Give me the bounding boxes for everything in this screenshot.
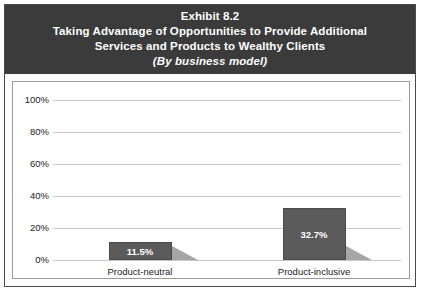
gridline-20 [53,228,401,229]
gridline-60 [53,164,401,165]
y-axis-tick-label: 20% [13,223,49,233]
gridline-0 [53,260,401,261]
exhibit-subtitle: (By business model) [5,54,415,69]
bar-product-neutral[interactable]: 11.5% [109,242,172,260]
bar-shadow [172,246,198,260]
gridline-80 [53,132,401,133]
y-axis-tick-label: 80% [13,127,49,137]
x-axis-category-label: Product-neutral [70,266,210,277]
gridline-40 [53,196,401,197]
bar-product-inclusive[interactable]: 32.7% [283,208,346,260]
y-axis-tick-label: 60% [13,159,49,169]
exhibit-frame: Exhibit 8.2 Taking Advantage of Opportun… [4,4,416,287]
chart-plot-area: 0%20%40%60%80%100%11.5%Product-neutral32… [13,82,409,278]
bar-value-label: 11.5% [110,246,171,257]
exhibit-title-line-2: Services and Products to Wealthy Clients [5,39,415,54]
exhibit-title-band: Exhibit 8.2 Taking Advantage of Opportun… [5,5,415,74]
chart-plot-panel: 0%20%40%60%80%100%11.5%Product-neutral32… [12,81,410,279]
bar-value-label: 32.7% [284,229,345,240]
gridline-100 [53,100,401,101]
y-axis-tick-label: 0% [13,255,49,265]
x-axis-category-label: Product-inclusive [244,266,384,277]
exhibit-number: Exhibit 8.2 [5,9,415,24]
exhibit-title-line-1: Taking Advantage of Opportunities to Pro… [5,24,415,39]
bar-shadow [346,246,372,260]
y-axis-tick-label: 100% [13,95,49,105]
y-axis-tick-label: 40% [13,191,49,201]
